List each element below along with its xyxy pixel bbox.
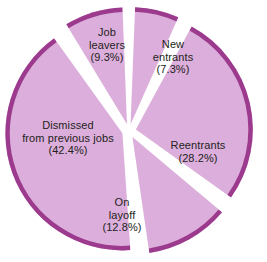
pie-chart-graphic [0,0,267,262]
pie-chart: Job leavers (9.3%) New entrants (7.3%) R… [0,0,267,262]
